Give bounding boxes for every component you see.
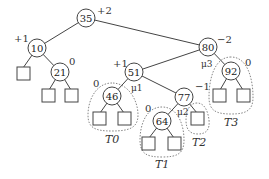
node-10: 10 <box>28 39 46 57</box>
leaf <box>237 89 250 102</box>
node-35: 35 <box>77 9 95 27</box>
leaf <box>118 112 131 125</box>
node-80: 80 <box>199 38 217 56</box>
balance-80: −2 <box>217 34 232 45</box>
balance-35: +2 <box>97 5 112 16</box>
balance-10: +1 <box>14 33 29 44</box>
node-21: 21 <box>51 63 69 81</box>
leaf <box>191 112 204 125</box>
leaf <box>93 112 106 125</box>
node-77: 77 <box>175 88 193 106</box>
balance-77: −1 <box>195 81 210 92</box>
leaf <box>142 137 155 150</box>
balance-92: 0 <box>245 57 251 68</box>
node-92: 92 <box>222 62 240 80</box>
label-mu1: μ1 <box>131 83 143 93</box>
node-46: 46 <box>103 87 121 105</box>
label-mu2: μ2 <box>177 107 189 117</box>
label-t3: T3 <box>224 116 238 129</box>
leaf <box>168 137 181 150</box>
avl-tree-diagram: 35 +2 10 +1 21 0 80 −2 μ3 92 0 51 +1 μ1 … <box>0 0 269 179</box>
svg-text:80: 80 <box>202 42 215 53</box>
label-t0: T0 <box>105 133 119 146</box>
svg-text:46: 46 <box>106 91 119 102</box>
leaf <box>65 89 78 102</box>
svg-text:10: 10 <box>31 43 44 54</box>
svg-text:64: 64 <box>156 116 169 127</box>
leaf <box>42 89 55 102</box>
leaf <box>213 89 226 102</box>
balance-21: 0 <box>69 56 75 67</box>
balance-51: +1 <box>113 58 128 69</box>
svg-text:35: 35 <box>80 13 93 24</box>
label-t2: T2 <box>192 136 206 149</box>
svg-text:77: 77 <box>178 92 191 103</box>
label-mu3: μ3 <box>201 59 213 69</box>
leaf <box>17 67 30 80</box>
svg-text:21: 21 <box>54 67 67 78</box>
balance-46: 0 <box>93 78 99 89</box>
svg-text:51: 51 <box>128 67 141 78</box>
svg-text:92: 92 <box>225 66 238 77</box>
node-64: 64 <box>153 112 171 130</box>
balance-64: 0 <box>145 103 151 114</box>
label-t1: T1 <box>155 158 169 171</box>
